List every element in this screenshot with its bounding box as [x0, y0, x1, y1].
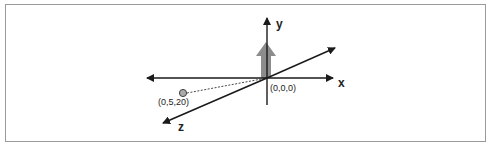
x-axis-label: x [338, 76, 345, 90]
dashed-projection-line [187, 78, 267, 93]
point-marker [179, 89, 186, 96]
up-vector-arrow [256, 42, 276, 78]
axes-diagram [0, 0, 492, 149]
z-axis-label: z [178, 120, 184, 134]
y-axis-label: y [276, 17, 283, 31]
z-axis-back [267, 48, 335, 78]
point-label: (0,5,20) [158, 97, 189, 107]
origin-label: (0,0,0) [270, 83, 296, 93]
